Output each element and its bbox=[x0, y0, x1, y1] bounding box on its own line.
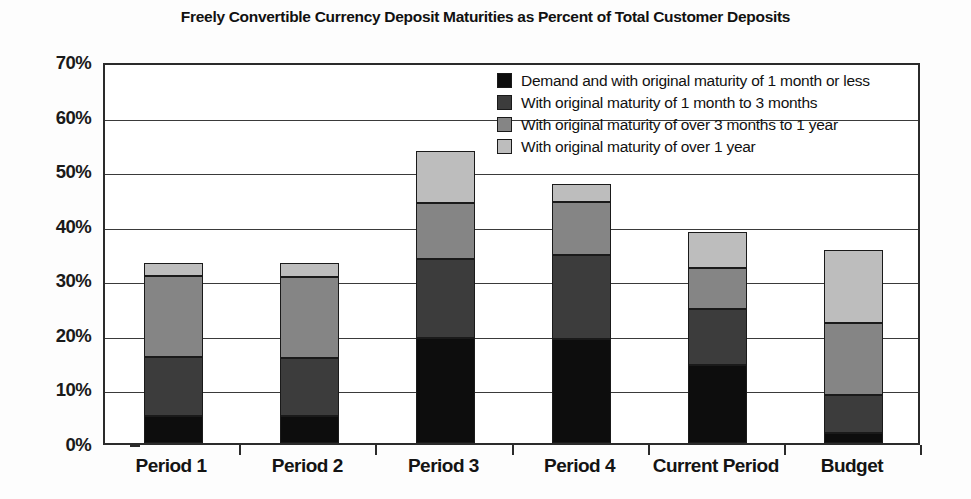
bar-segment bbox=[824, 433, 883, 443]
bar-segment bbox=[552, 202, 611, 255]
y-axis-tick-label: 40% bbox=[35, 216, 91, 238]
y-axis-tick-label: 70% bbox=[35, 52, 91, 74]
bar-segment bbox=[552, 255, 611, 339]
x-axis-tick-label: Period 3 bbox=[408, 455, 479, 477]
legend-item[interactable]: With original maturity of over 1 year bbox=[497, 136, 870, 157]
legend-swatch-icon bbox=[497, 139, 512, 154]
legend-item[interactable]: With original maturity of 1 month to 3 m… bbox=[497, 92, 870, 113]
gridline bbox=[105, 174, 918, 175]
x-axis-tick-mark bbox=[920, 445, 922, 455]
x-axis-tick-mark bbox=[375, 445, 377, 455]
gridline bbox=[105, 338, 918, 339]
bar-segment bbox=[688, 268, 747, 309]
bar-segment bbox=[688, 309, 747, 365]
bar-column-period-1[interactable] bbox=[144, 61, 203, 443]
bar-column-period-2[interactable] bbox=[280, 61, 339, 443]
y-axis-tick-label: 60% bbox=[35, 107, 91, 129]
bar-segment bbox=[824, 323, 883, 395]
y-axis-tick-label: 10% bbox=[35, 379, 91, 401]
x-axis-tick-label: Current Period bbox=[653, 455, 779, 477]
bar-segment bbox=[280, 358, 339, 415]
x-axis-tick-label: Period 2 bbox=[272, 455, 343, 477]
bar-segment bbox=[416, 338, 475, 443]
bar-segment bbox=[416, 259, 475, 338]
x-axis-tick-label: Budget bbox=[821, 455, 883, 477]
bar-segment bbox=[144, 263, 203, 276]
bar-segment bbox=[688, 232, 747, 268]
x-axis-tick-mark bbox=[239, 445, 241, 455]
chart-title: Freely Convertible Currency Deposit Matu… bbox=[0, 8, 971, 26]
legend-swatch-icon bbox=[497, 95, 512, 110]
y-axis-tick-label: 20% bbox=[35, 325, 91, 347]
legend-swatch-icon bbox=[497, 117, 512, 132]
bar-segment bbox=[824, 250, 883, 323]
bar-column-period-3[interactable] bbox=[416, 61, 475, 443]
chart-legend: Demand and with original maturity of 1 m… bbox=[497, 70, 870, 158]
bar-segment bbox=[280, 277, 339, 358]
bar-segment bbox=[280, 263, 339, 277]
y-axis: 0%10%20%30%40%50%60%70% bbox=[35, 0, 91, 499]
legend-swatch-icon bbox=[497, 73, 512, 88]
legend-label: With original maturity of over 1 year bbox=[521, 138, 756, 156]
x-axis-tick-label: Period 1 bbox=[136, 455, 207, 477]
bar-segment bbox=[552, 339, 611, 443]
x-axis-tick-mark bbox=[512, 445, 514, 455]
bar-segment bbox=[144, 416, 203, 443]
chart-page: Freely Convertible Currency Deposit Matu… bbox=[0, 0, 971, 499]
gridline bbox=[105, 283, 918, 284]
bar-segment bbox=[144, 276, 203, 357]
bar-segment bbox=[824, 395, 883, 433]
y-axis-tick-label: 30% bbox=[35, 270, 91, 292]
x-axis-tick-mark bbox=[648, 445, 650, 455]
bar-segment bbox=[688, 365, 747, 443]
x-axis-tick-mark bbox=[784, 445, 786, 455]
legend-label: With original maturity of over 3 months … bbox=[521, 116, 838, 134]
y-axis-tick-label: 0% bbox=[35, 434, 91, 456]
y-axis-tick-mark bbox=[130, 445, 140, 447]
bar-segment bbox=[552, 184, 611, 201]
bar-segment bbox=[280, 416, 339, 443]
legend-label: With original maturity of 1 month to 3 m… bbox=[521, 94, 817, 112]
bar-segment bbox=[416, 151, 475, 203]
y-axis-tick-label: 50% bbox=[35, 161, 91, 183]
gridline bbox=[105, 229, 918, 230]
gridline bbox=[105, 392, 918, 393]
legend-item[interactable]: Demand and with original maturity of 1 m… bbox=[497, 70, 870, 91]
bar-segment bbox=[416, 203, 475, 259]
legend-item[interactable]: With original maturity of over 3 months … bbox=[497, 114, 870, 135]
x-axis-tick-label: Period 4 bbox=[544, 455, 615, 477]
bar-segment bbox=[144, 357, 203, 416]
legend-label: Demand and with original maturity of 1 m… bbox=[521, 72, 870, 90]
